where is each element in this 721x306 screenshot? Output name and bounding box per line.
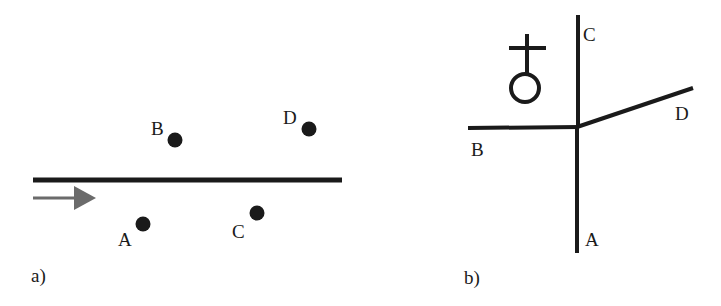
point-d-label: D — [283, 107, 297, 128]
panel-a-caption: a) — [31, 265, 46, 287]
point-a-label: A — [118, 229, 132, 250]
point-a: A — [118, 217, 151, 251]
diagram-canvas: A B C D a) C D B A b) — [0, 0, 721, 306]
branch-b-label: B — [471, 139, 484, 160]
point-c-label: C — [232, 221, 245, 242]
panel-a: A B C D a) — [31, 107, 342, 287]
point-d: D — [283, 107, 317, 137]
point-c: C — [232, 206, 265, 243]
branch-a-label: A — [585, 229, 599, 250]
point-b-label: B — [151, 118, 164, 139]
point-b: B — [151, 118, 183, 148]
panel-b: C D B A b) — [464, 15, 693, 289]
female-cross-symbol-icon — [509, 34, 546, 102]
branch-d-label: D — [675, 103, 689, 124]
flow-arrow-icon — [33, 186, 96, 210]
branch-c-label: C — [583, 24, 596, 45]
branch-b-line — [468, 127, 579, 128]
panel-b-caption: b) — [464, 267, 480, 289]
